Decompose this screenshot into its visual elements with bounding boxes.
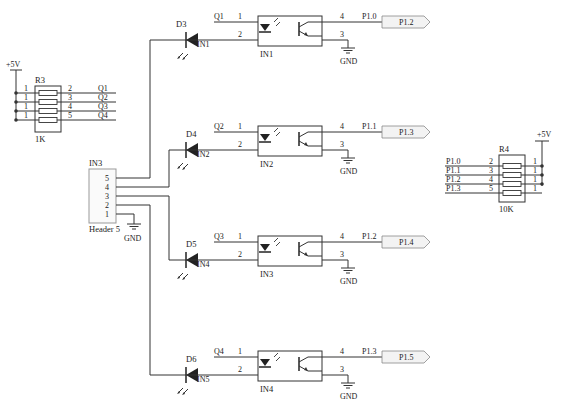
svg-text:3: 3 [68,93,72,102]
diode-ref: D3 [176,19,186,29]
svg-text:1: 1 [24,84,28,93]
svg-text:5: 5 [489,184,493,193]
diode-ref: D4 [186,129,197,139]
led-diode: D6 IN5 [177,354,258,395]
led-diode: D5 IN4 [177,239,258,280]
schematic: +5V R3 1K 1 2 Q1 1 3 Q2 1 4 Q [0,0,563,412]
svg-text:3: 3 [340,365,344,374]
header-wiring [116,40,184,375]
svg-text:1: 1 [238,347,242,356]
svg-text:3: 3 [105,192,109,201]
svg-text:2: 2 [105,201,109,210]
svg-text:GND: GND [340,57,358,66]
light-emission-icon [177,273,188,280]
svg-text:5: 5 [105,174,109,183]
input-net: Q1 [214,12,224,21]
r4-ref: R4 [499,144,510,154]
channel-1: D3 IN1 2 Q1 1 IN1 4 P1.0 [176,12,430,66]
svg-text:4: 4 [340,347,344,356]
svg-text:5: 5 [68,111,72,120]
r3-row-4: 1 5 Q4 [14,111,116,123]
light-emission-icon [177,53,188,60]
r3-ref: R3 [35,75,45,85]
svg-text:2: 2 [238,250,242,259]
ground-icon [341,268,355,273]
svg-text:4: 4 [340,122,344,131]
input-net: Q4 [214,347,224,356]
svg-text:4: 4 [68,102,72,111]
opto-ref: IN2 [260,159,273,169]
port-label: P1.5 [399,353,413,362]
svg-text:3: 3 [340,250,344,259]
input-net: Q2 [214,122,224,131]
r4-supply-label: +5V [537,130,552,139]
diode-ref: D5 [186,239,196,249]
diode-ref: D6 [186,354,196,364]
svg-text:4: 4 [489,175,493,184]
channel-2: D4 IN2 2 Q2 1 IN2 4 P1.1 [177,122,430,176]
diode-net: IN2 [197,150,209,159]
svg-text:2: 2 [238,30,242,39]
svg-text:4: 4 [105,183,109,192]
svg-text:1: 1 [24,111,28,120]
svg-text:GND: GND [340,277,358,286]
svg-text:GND: GND [340,167,358,176]
svg-text:3: 3 [340,140,344,149]
svg-text:3: 3 [489,166,493,175]
svg-text:1: 1 [105,210,109,219]
header-connector: IN3 Header 5 5 4 3 2 1 GND [89,158,142,243]
led-diode: D4 IN2 [177,129,258,170]
ground-icon [341,158,355,163]
output-net: P1.1 [362,122,376,131]
header-ref: IN3 [89,158,102,168]
svg-text:1: 1 [238,232,242,241]
light-emission-icon [177,388,188,395]
svg-text:1: 1 [533,184,537,193]
port-label: P1.4 [399,238,413,247]
port-connector: P1.2 [382,16,430,28]
net-label: Q1 [98,84,108,93]
r3-value: 1K [35,134,46,144]
svg-text:3: 3 [340,30,344,39]
svg-text:GND: GND [340,392,358,401]
opto-ref: IN1 [260,49,273,59]
net-label: Q4 [98,111,108,120]
port-connector: P1.5 [382,351,430,363]
svg-text:1: 1 [238,122,242,131]
svg-text:2: 2 [238,365,242,374]
r3-resistor-network: +5V R3 1K 1 2 Q1 1 3 Q2 1 4 Q [6,60,116,144]
diode-net: IN1 [197,40,209,49]
opto-ref: IN3 [260,269,273,279]
svg-text:1: 1 [533,157,537,166]
channel-4: D6 IN5 2 Q4 1 IN4 4 P1.3 [177,347,430,401]
header-body [89,169,116,223]
led-diode: D3 IN1 [176,19,258,60]
header-gnd-label: GND [124,234,142,243]
output-net: P1.0 [362,12,376,21]
net-label: P1.1 [446,166,460,175]
port-connector: P1.3 [382,126,430,138]
svg-text:1: 1 [533,166,537,175]
r3-supply-label: +5V [6,60,21,69]
svg-text:1: 1 [238,12,242,21]
input-net: Q3 [214,232,224,241]
opto-ref: IN4 [260,384,274,394]
net-label: Q3 [98,102,108,111]
svg-text:1: 1 [24,93,28,102]
r4-row-4: P1.3 5 1 [445,184,542,196]
port-connector: P1.4 [382,236,430,248]
ground-icon [341,383,355,388]
diode-net: IN5 [197,375,209,384]
r4-value: 10K [499,204,515,214]
svg-text:4: 4 [340,12,344,21]
port-label: P1.2 [399,18,413,27]
svg-text:2: 2 [489,157,493,166]
svg-text:1: 1 [533,175,537,184]
light-emission-icon [177,163,188,170]
svg-text:4: 4 [340,232,344,241]
output-net: P1.2 [362,232,376,241]
net-label: P1.0 [446,157,460,166]
svg-text:2: 2 [68,84,72,93]
ground-icon [127,224,141,229]
net-label: P1.3 [446,184,460,193]
